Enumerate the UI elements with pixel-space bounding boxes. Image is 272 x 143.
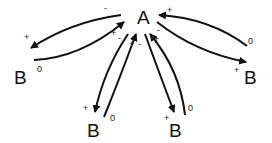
sign-plus-b3-end: +	[164, 113, 169, 123]
edge-group-a-b4	[157, 15, 247, 62]
sign-plus-b2-end: +	[83, 103, 88, 113]
sign-plus-b1-end: +	[24, 32, 29, 42]
sign-plus-b4-end: +	[234, 65, 239, 75]
node-b-left: B	[14, 67, 27, 88]
edge-group-a-b3	[145, 34, 185, 115]
sign-plus-a-from-b1: +	[111, 28, 116, 38]
sign-plus-a-from-b2: +	[129, 39, 134, 49]
sign-plus-a-from-b4: +	[167, 5, 172, 15]
node-b-right: B	[244, 67, 257, 88]
node-a: A	[137, 7, 150, 28]
arrow-a-to-b1	[31, 15, 121, 48]
diagram-canvas: A B B B B - + 0 + + 0 - + - + 0 + - + 0 …	[0, 0, 272, 143]
sign-minus-a-b1: -	[104, 3, 107, 13]
sign-zero-b4: 0	[248, 36, 253, 46]
sign-zero-b1: 0	[37, 64, 42, 74]
sign-minus-a-b2: -	[118, 33, 121, 43]
node-b-bottom-right: B	[169, 120, 182, 141]
arrow-b4-to-a	[159, 15, 247, 46]
arrow-b3-to-a	[150, 34, 185, 115]
node-b-bottom-left: B	[87, 120, 100, 141]
arrow-a-to-b4	[157, 22, 246, 62]
sign-zero-b3: 0	[188, 103, 193, 113]
sign-zero-b2: 0	[110, 113, 115, 123]
sign-plus-a-from-b3: +	[154, 34, 159, 44]
sign-minus-a-b3: -	[138, 39, 141, 49]
